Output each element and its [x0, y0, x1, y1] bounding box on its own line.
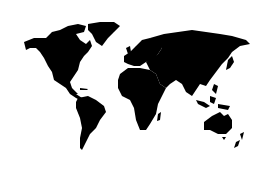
indonesia: [196, 96, 230, 110]
australia: [204, 112, 232, 134]
north-america: [24, 24, 92, 94]
south-america: [76, 96, 106, 150]
tasmania: [222, 137, 226, 140]
greenland: [88, 22, 120, 46]
philippines: [212, 84, 218, 94]
madagascar: [157, 112, 161, 121]
new-zealand: [234, 132, 244, 148]
caribbean: [80, 88, 88, 90]
world-map: [0, 0, 272, 169]
